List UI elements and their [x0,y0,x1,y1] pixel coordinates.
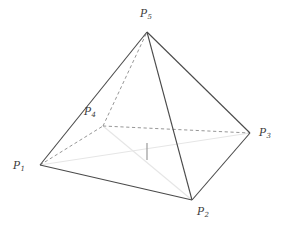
edge-P3-P5 [147,32,250,133]
vertex-subscript-p5: 5 [147,13,151,21]
vertex-label-p2: P2 [197,206,209,217]
hidden-edges-group [40,32,250,165]
vertex-subscript-p3: 3 [266,132,270,140]
edge-P2-P5 [147,32,192,200]
solid-edges-group [40,32,250,200]
edge-P1-P2 [40,165,192,200]
vertex-label-p5: P5 [140,8,152,19]
vertex-label-p3: P3 [259,127,271,138]
edge-P1-P5 [40,32,147,165]
edge-P1-P4 [40,126,103,165]
vertex-subscript-p1: 1 [20,165,24,173]
pyramid-figure: P1 P2 P3 P4 P5 [0,0,288,230]
edge-P4-P3 [103,126,250,133]
edge-P2-P3 [192,133,250,200]
vertex-subscript-p2: 2 [204,211,208,219]
vertex-subscript-p4: 4 [91,111,95,119]
vertex-label-p4: P4 [84,106,96,117]
pyramid-drawing-canvas [0,0,288,230]
vertex-label-p1: P1 [13,160,25,171]
diagonal-P1-P3 [40,133,250,165]
diagonal-P4-P2 [103,126,192,200]
